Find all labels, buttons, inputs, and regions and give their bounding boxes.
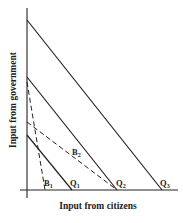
x-axis-title: Input from citizens bbox=[59, 201, 137, 211]
label-b1: B1 bbox=[44, 178, 53, 189]
label-q1: Q1 bbox=[70, 178, 80, 189]
isoquant-q3 bbox=[27, 20, 162, 190]
label-q3: Q3 bbox=[160, 178, 170, 189]
isoquant-diagram: B1 Q1 B2 Q2 Q3 Input from citizens Input… bbox=[0, 0, 183, 223]
budget-line-b1 bbox=[27, 82, 45, 190]
label-b2: B2 bbox=[72, 147, 81, 158]
label-q2: Q2 bbox=[116, 178, 126, 189]
y-axis-title: Input from government bbox=[8, 51, 18, 148]
isoquant-q2 bbox=[27, 77, 117, 190]
